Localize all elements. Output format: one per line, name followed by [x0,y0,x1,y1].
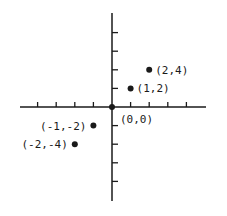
point-label: (0,0) [120,113,153,126]
point-label: (-2,-4) [21,138,67,151]
point-label: (1,2) [137,82,170,95]
point-marker [90,123,96,129]
point-marker [72,141,78,147]
coordinate-plane: (2,4)(1,2)(0,0)(-1,-2)(-2,-4) [0,0,227,216]
point-label: (2,4) [155,64,188,77]
point-marker [128,85,134,91]
data-point: (-2,-4) [21,138,77,151]
point-marker [146,67,152,73]
data-point: (-1,-2) [40,120,96,133]
point-marker [109,104,115,110]
data-point: (1,2) [128,82,170,95]
point-label: (-1,-2) [40,120,86,133]
data-point: (2,4) [146,64,188,77]
